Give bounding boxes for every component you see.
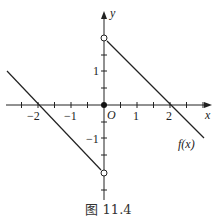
y-tick-label-neg1: −1 xyxy=(86,132,99,146)
left-branch-line xyxy=(7,71,101,170)
x-tick-label-neg1: −1 xyxy=(64,109,77,123)
figure-caption: 图 11.4 xyxy=(0,199,217,218)
right-branch-line xyxy=(107,41,204,138)
open-point-top xyxy=(101,35,107,41)
curve-label: f(x) xyxy=(178,137,195,151)
x-tick-label-neg2: −2 xyxy=(27,109,40,123)
y-axis-arrow-icon xyxy=(101,11,107,19)
x-tick-label-1: 1 xyxy=(133,109,139,123)
y-axis-label: y xyxy=(109,6,116,20)
y-tick-label-1: 1 xyxy=(93,64,99,78)
x-axis-label: x xyxy=(204,108,211,122)
x-tick-label-2: 2 xyxy=(166,109,172,123)
origin-label: O xyxy=(107,108,116,122)
open-point-bottom xyxy=(101,170,107,176)
function-graph: y x O −2 −1 1 2 1 −1 f(x) xyxy=(0,0,217,219)
